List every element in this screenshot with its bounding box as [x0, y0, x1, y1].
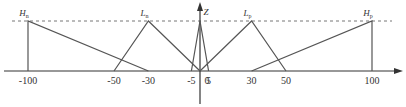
membership-set-hp — [252, 21, 372, 71]
tick-label: -100 — [19, 75, 37, 86]
tick-label: -5 — [187, 75, 195, 86]
y-axis-arrow-icon — [197, 2, 203, 11]
set-label-subscript: n — [145, 13, 148, 19]
tick-label: 50 — [281, 75, 291, 86]
set-label-subscript: n — [26, 13, 29, 19]
membership-set-hn — [28, 21, 148, 71]
membership-function-diagram: -100-50-30-5053050100 HnLnZLpHp — [0, 0, 406, 107]
tick-label: 5 — [206, 75, 211, 86]
x-axis-ticks: -100-50-30-5053050100 — [19, 75, 380, 86]
set-labels: HnLnZLpHp — [18, 7, 373, 19]
tick-label: 30 — [247, 75, 257, 86]
membership-set-lp — [200, 21, 286, 71]
tick-label: -50 — [107, 75, 120, 86]
set-label-hp: Hp — [362, 8, 373, 19]
tick-label: -30 — [142, 75, 155, 86]
membership-set-ln — [114, 21, 200, 71]
tick-label: 100 — [365, 75, 380, 86]
set-label-subscript: p — [370, 13, 373, 19]
x-axis-arrow-icon — [394, 68, 403, 74]
set-label-z: Z — [203, 7, 209, 17]
set-label-lp: Lp — [243, 8, 252, 19]
set-label-hn: Hn — [18, 8, 29, 19]
set-label-ln: Ln — [139, 8, 148, 19]
axes — [4, 2, 403, 104]
set-label-subscript: p — [249, 13, 252, 19]
